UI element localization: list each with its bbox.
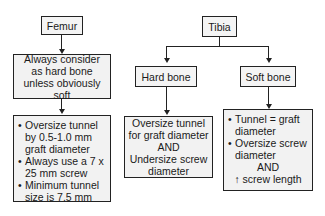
femur-node: Femur — [41, 16, 83, 35]
soft-bone-node: Soft bone — [240, 66, 296, 87]
soft-bone-extra: ↑ screw length — [228, 173, 308, 185]
hard-bone-recommendation-node: Oversize tunnel for graft diameter AND U… — [124, 116, 213, 178]
connector — [166, 46, 167, 58]
list-item: Oversize tunnel by 0.5-1.0 mm graft diam… — [18, 119, 106, 155]
soft-bone-recommendations-list: Tunnel = graft diameter Oversize screw d… — [228, 113, 308, 161]
arrow-down-icon — [266, 58, 272, 63]
connector — [219, 37, 220, 46]
list-item: Always use a 7 x 25 mm screw — [18, 155, 106, 179]
femur-recommendations-list: Oversize tunnel by 0.5-1.0 mm graft diam… — [18, 119, 106, 203]
connector — [61, 35, 62, 49]
hard-bone-rec-line2: Undersize screw diameter — [125, 153, 212, 177]
connector — [61, 99, 62, 109]
connector — [268, 46, 269, 58]
list-item: Tunnel = graft diameter — [228, 113, 308, 137]
soft-bone-and: AND — [228, 161, 308, 173]
acl-fixation-flowchart: Femur Always consider as hard bone unles… — [0, 0, 325, 216]
list-item: Oversize screw diameter — [228, 137, 308, 161]
femur-label: Femur — [47, 20, 77, 32]
arrow-down-icon — [164, 58, 170, 63]
hard-bone-label: Hard bone — [141, 71, 190, 83]
arrow-down-icon — [164, 110, 170, 115]
tibia-label: Tibia — [208, 21, 230, 33]
hard-bone-node: Hard bone — [135, 66, 197, 87]
list-item: Minimum tunnel size is 7.5 mm — [18, 179, 106, 203]
hard-bone-and: AND — [157, 141, 179, 153]
soft-bone-recommendation-node: Tunnel = graft diameter Oversize screw d… — [223, 109, 313, 191]
connector — [166, 46, 269, 47]
hard-bone-rec-line1: Oversize tunnel for graft diameter — [125, 117, 212, 141]
arrow-down-icon — [59, 109, 65, 114]
femur-recommendations-node: Oversize tunnel by 0.5-1.0 mm graft diam… — [13, 115, 111, 202]
tibia-node: Tibia — [202, 16, 237, 37]
connector — [166, 87, 167, 110]
soft-bone-label: Soft bone — [246, 71, 291, 83]
femur-rule-node: Always consider as hard bone unless obvi… — [13, 54, 111, 99]
femur-rule-text: Always consider as hard bone unless obvi… — [18, 53, 106, 101]
connector — [268, 87, 269, 104]
